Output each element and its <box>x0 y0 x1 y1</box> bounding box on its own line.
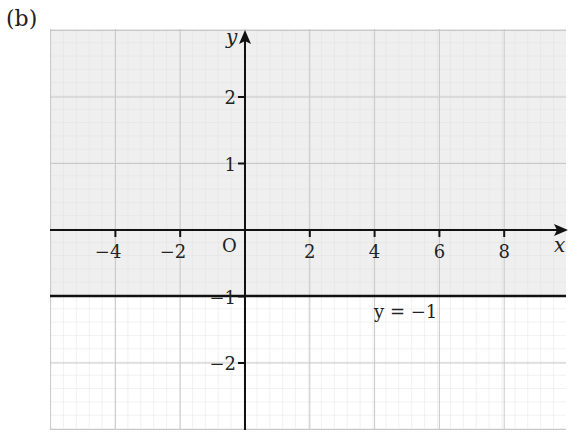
graph: −4−2246821−1−2 y x O y = −1 <box>0 0 586 440</box>
line-label: y = −1 <box>373 301 437 322</box>
y-tick-label: −1 <box>209 287 236 308</box>
x-tick-label: 4 <box>369 241 380 262</box>
y-tick-label: −2 <box>209 353 236 374</box>
x-tick-label: 2 <box>304 241 315 262</box>
x-axis-label: x <box>554 233 565 257</box>
y-axis-label: y <box>225 25 238 49</box>
x-tick-label: −4 <box>95 241 122 262</box>
y-tick-label: 2 <box>225 87 236 108</box>
x-tick-label: −2 <box>160 241 187 262</box>
x-tick-label: 6 <box>434 241 445 262</box>
x-tick-label: 8 <box>498 241 509 262</box>
y-tick-label: 1 <box>225 154 236 175</box>
origin-label: O <box>222 235 237 256</box>
